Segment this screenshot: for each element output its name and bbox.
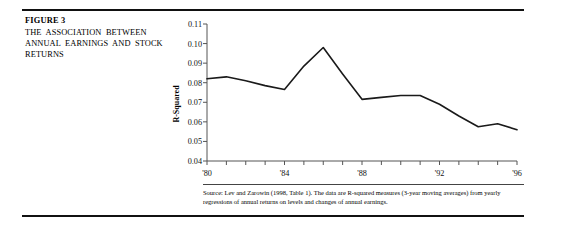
x-tick-label: '80 bbox=[202, 169, 212, 178]
x-tick-label: '84 bbox=[280, 169, 290, 178]
figure-page: FIGURE 3 THE ASSOCIATION BETWEEN ANNUAL … bbox=[0, 0, 564, 227]
y-tick-label: 0.06 bbox=[188, 118, 202, 127]
y-tick-label: 0.07 bbox=[188, 98, 202, 107]
x-tick-marks bbox=[207, 161, 517, 165]
caption-block: FIGURE 3 THE ASSOCIATION BETWEEN ANNUAL … bbox=[25, 15, 165, 61]
y-tick-label: 0.10 bbox=[188, 40, 202, 49]
bottom-rule bbox=[22, 215, 524, 217]
y-tick-label: 0.04 bbox=[188, 157, 202, 166]
chart-area: R-Squared 0.040.050.060.070.080.090.100.… bbox=[165, 16, 525, 181]
y-axis-title-label: R-Squared bbox=[172, 85, 181, 123]
figure-number: FIGURE 3 bbox=[25, 15, 165, 26]
data-series-line bbox=[207, 47, 517, 129]
y-tick-label: 0.05 bbox=[188, 137, 202, 146]
y-axis-title: R-Squared bbox=[172, 85, 181, 123]
line-chart: R-Squared 0.040.050.060.070.080.090.100.… bbox=[165, 16, 525, 181]
y-tick-label: 0.11 bbox=[188, 20, 202, 29]
figure-title: THE ASSOCIATION BETWEEN ANNUAL EARNINGS … bbox=[25, 27, 165, 61]
x-tick-label: '92 bbox=[435, 169, 445, 178]
top-rule bbox=[22, 9, 524, 11]
y-tick-label: 0.09 bbox=[188, 59, 202, 68]
x-tick-labels: '80'84'88'92'96 bbox=[202, 169, 522, 178]
x-tick-label: '88 bbox=[357, 169, 367, 178]
y-tick-labels: 0.040.050.060.070.080.090.100.11 bbox=[188, 20, 202, 166]
y-tick-label: 0.08 bbox=[188, 79, 202, 88]
x-tick-label: '96 bbox=[512, 169, 522, 178]
source-note: Source: Lev and Zarowin (1998, Table 1).… bbox=[203, 188, 525, 206]
source-note-rule bbox=[203, 184, 524, 185]
y-tick-marks bbox=[203, 24, 207, 161]
